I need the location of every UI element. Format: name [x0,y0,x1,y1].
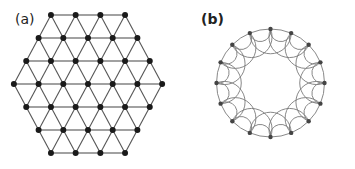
lattice-node [122,104,128,110]
lattice-edge [100,15,112,38]
lattice-edge [113,107,125,130]
panel-b-label: (b) [201,12,224,26]
lattice-edge [100,107,112,130]
ring-node [214,81,218,85]
lattice-node [48,150,54,156]
lattice-node [23,104,29,110]
lattice-node [60,127,66,133]
lattice-edge [76,15,88,38]
neighbor-arc [250,124,271,137]
lattice-edge [125,15,137,38]
lattice-edge [76,107,88,130]
lattice-node [60,35,66,41]
lattice-edge [100,38,112,61]
lattice-node [85,81,91,87]
lattice-edge [39,130,51,153]
lattice-edge [100,130,112,153]
lattice-edge [88,61,100,84]
lattice-node [97,58,103,64]
ring-node [318,60,322,64]
ring-node [268,135,272,139]
ring-node [230,43,234,47]
ring-node [248,131,252,135]
lattice-edge [39,84,51,107]
lattice-edge [137,84,149,107]
lattice-edge [26,84,38,107]
lattice-edge [63,15,75,38]
lattice-node [159,81,165,87]
panel-a-triangular-lattice: (a) [0,0,177,169]
lattice-edge [125,107,137,130]
lattice-edge [63,61,75,84]
lattice-edge [76,61,88,84]
lattice-edge [51,15,63,38]
lattice-edge [150,84,162,107]
panel-a-label: (a) [15,12,35,26]
lattice-node [36,127,42,133]
lattice-edge [88,130,100,153]
lattice-node [110,127,116,133]
lattice-edge [88,38,100,61]
lattice-node [97,104,103,110]
lattice-edge [14,61,26,84]
lattice-edge [26,61,38,84]
neighbor-arc [250,29,271,42]
lattice-edge [113,130,125,153]
neighbor-arc [217,83,230,104]
lattice-edge [63,130,75,153]
lattice-node [73,12,79,18]
lattice-node [97,150,103,156]
lattice-edge [76,130,88,153]
panel-b-ring-lattice: (b) [177,0,355,169]
ring-node [306,43,310,47]
lattice-node [147,104,153,110]
lattice-node [48,12,54,18]
neighbor-arc [217,62,230,83]
lattice-edge [137,38,149,61]
lattice-edge [39,38,51,61]
ring-node [322,81,326,85]
lattice-edge [125,84,137,107]
lattice-node [122,58,128,64]
lattice-node [85,35,91,41]
lattice-node [110,35,116,41]
lattice-edge [88,84,100,107]
lattice-edge [113,84,125,107]
lattice-node [122,12,128,18]
lattice-edge [51,38,63,61]
lattice-edge [63,107,75,130]
neighbor-arc [312,83,325,104]
lattice-edge [137,61,149,84]
lattice-node [48,104,54,110]
lattice-edge [51,61,63,84]
lattice-edge [88,15,100,38]
lattice-node [134,127,140,133]
lattice-node [36,81,42,87]
lattice-edge [150,61,162,84]
ring-node [318,101,322,105]
lattice-node [122,150,128,156]
ring-node [230,119,234,123]
lattice-edge [113,61,125,84]
lattice-node [85,127,91,133]
lattice-edge [39,15,51,38]
lattice-edge [137,107,149,130]
lattice-edge [100,61,112,84]
neighbor-arc [312,62,325,83]
lattice-edge [51,130,63,153]
lattice-edge [39,107,51,130]
lattice-node [134,35,140,41]
ring-node [218,101,222,105]
lattice-edge [88,107,100,130]
lattice-edge [76,84,88,107]
lattice-node [60,81,66,87]
lattice-edge [14,84,26,107]
lattice-edge [125,38,137,61]
lattice-edge [113,38,125,61]
lattice-edge [63,38,75,61]
lattice-edge [39,61,51,84]
lattice-edge [26,107,38,130]
lattice-edge [51,84,63,107]
lattice-node [134,81,140,87]
neighbor-arc [270,124,291,137]
